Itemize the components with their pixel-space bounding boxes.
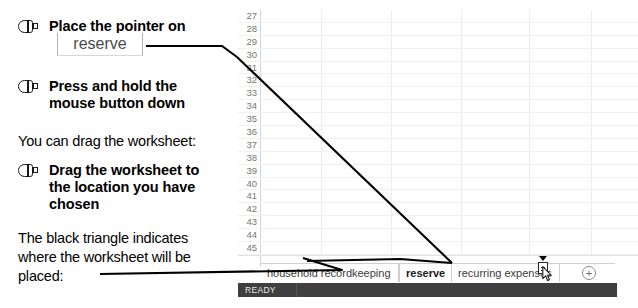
instruction-step-3: Drag the worksheet to the location you h…: [18, 162, 223, 213]
column-gridline: [321, 100, 322, 112]
column-gridline: [461, 62, 462, 74]
instruction-panel: Place the pointer on reserve Press and h…: [0, 0, 238, 308]
column-gridline: [461, 216, 462, 228]
column-gridline: [321, 242, 322, 254]
reserve-tab-callout-label: reserve: [58, 33, 142, 54]
column-gridline: [391, 87, 392, 99]
column-gridline: [529, 126, 530, 138]
spreadsheet-row[interactable]: 38: [238, 152, 638, 165]
spreadsheet-row[interactable]: 34: [238, 100, 638, 113]
column-gridline: [461, 152, 462, 164]
column-gridline: [591, 49, 592, 61]
spreadsheet-row[interactable]: 31: [238, 62, 638, 75]
column-gridline: [529, 216, 530, 228]
column-gridline: [591, 165, 592, 177]
reserve-tab-callout: reserve: [57, 33, 143, 56]
column-gridline: [321, 74, 322, 86]
row-header-45[interactable]: 45: [238, 242, 261, 254]
row-header-41[interactable]: 41: [238, 190, 261, 202]
column-gridline: [321, 62, 322, 74]
column-gridline: [591, 126, 592, 138]
column-gridline: [591, 74, 592, 86]
spreadsheet-row[interactable]: 37: [238, 139, 638, 152]
column-gridline: [321, 87, 322, 99]
row-header-partial: [238, 256, 261, 267]
row-header-36[interactable]: 36: [238, 126, 261, 138]
row-header-32[interactable]: 32: [238, 74, 261, 86]
column-gridline: [461, 229, 462, 241]
spreadsheet-row[interactable]: 33: [238, 87, 638, 100]
column-gridline: [321, 23, 322, 35]
row-header-27[interactable]: 27: [238, 10, 261, 22]
column-gridline: [391, 139, 392, 151]
row-header-42[interactable]: 42: [238, 203, 261, 215]
column-gridline: [391, 203, 392, 215]
row-header-28[interactable]: 28: [238, 23, 261, 35]
spreadsheet-row[interactable]: 30: [238, 49, 638, 62]
column-gridline: [591, 10, 592, 22]
column-gridline: [321, 126, 322, 138]
column-gridline: [529, 23, 530, 35]
spreadsheet-grid[interactable]: 27282930313233343536373839404142434445: [238, 10, 638, 255]
add-sheet-label: +: [583, 267, 595, 279]
row-header-40[interactable]: 40: [238, 178, 261, 190]
row-header-37[interactable]: 37: [238, 139, 261, 151]
row-header-29[interactable]: 29: [238, 36, 261, 48]
spreadsheet-row[interactable]: 36: [238, 126, 638, 139]
instruction-step-2: Press and hold the mouse button down: [18, 78, 218, 112]
column-gridline: [591, 203, 592, 215]
column-gridline: [391, 10, 392, 22]
mouse-icon: [18, 20, 40, 34]
column-gridline: [591, 190, 592, 202]
sheet-tab-household-recordkeeping[interactable]: household recordkeeping: [261, 264, 399, 282]
column-gridline: [321, 113, 322, 125]
status-bar-divider: [296, 283, 297, 297]
column-gridline: [529, 113, 530, 125]
status-bar: READY: [238, 283, 617, 297]
sheet-tab-bar[interactable]: household recordkeepingreserverecurring …: [261, 263, 615, 281]
spreadsheet-row[interactable]: 35: [238, 113, 638, 126]
spreadsheet-row[interactable]: 42: [238, 203, 638, 216]
column-gridline: [529, 165, 530, 177]
row-header-34[interactable]: 34: [238, 100, 261, 112]
spreadsheet-row[interactable]: 28: [238, 23, 638, 36]
column-gridline: [529, 100, 530, 112]
row-header-39[interactable]: 39: [238, 165, 261, 177]
spreadsheet-pane: 27282930313233343536373839404142434445 h…: [238, 0, 638, 308]
column-gridline: [591, 100, 592, 112]
column-gridline: [461, 36, 462, 48]
column-gridline: [321, 190, 322, 202]
spreadsheet-row[interactable]: 29: [238, 36, 638, 49]
column-gridline: [461, 87, 462, 99]
column-gridline: [391, 36, 392, 48]
row-header-33[interactable]: 33: [238, 87, 261, 99]
instruction-step-3-label: Drag the worksheet to the location you h…: [49, 162, 223, 213]
column-gridline: [529, 242, 530, 254]
row-header-43[interactable]: 43: [238, 216, 261, 228]
status-bar-text: READY: [245, 284, 276, 296]
mouse-icon: [18, 164, 40, 178]
spreadsheet-row[interactable]: 39: [238, 165, 638, 178]
column-gridline: [591, 216, 592, 228]
column-gridline: [461, 113, 462, 125]
sheet-tab-reserve[interactable]: reserve: [399, 264, 452, 282]
row-header-35[interactable]: 35: [238, 113, 261, 125]
column-gridline: [321, 49, 322, 61]
column-gridline: [391, 165, 392, 177]
column-gridline: [391, 152, 392, 164]
row-header-44[interactable]: 44: [238, 229, 261, 241]
spreadsheet-row[interactable]: 27: [238, 10, 638, 23]
spreadsheet-row[interactable]: 41: [238, 190, 638, 203]
row-header-38[interactable]: 38: [238, 152, 261, 164]
column-gridline: [391, 242, 392, 254]
column-gridline: [591, 62, 592, 74]
spreadsheet-row[interactable]: 45: [238, 242, 638, 255]
row-header-30[interactable]: 30: [238, 49, 261, 61]
spreadsheet-row[interactable]: 32: [238, 74, 638, 87]
spreadsheet-row[interactable]: 43: [238, 216, 638, 229]
spreadsheet-row[interactable]: 40: [238, 178, 638, 191]
plus-circle-icon[interactable]: +: [582, 266, 596, 280]
column-gridline: [461, 165, 462, 177]
spreadsheet-row[interactable]: 44: [238, 229, 638, 242]
row-header-31[interactable]: 31: [238, 62, 261, 74]
